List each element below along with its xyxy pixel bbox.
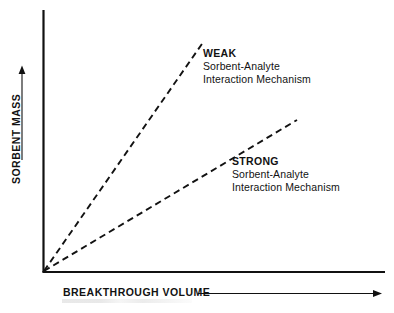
series-line-weak xyxy=(44,41,204,271)
cropped-caption-remnant xyxy=(62,299,192,303)
annotation-weak-line1: Sorbent-Analyte xyxy=(203,60,311,73)
annotation-weak-line2: Interaction Mechanism xyxy=(203,73,311,86)
arrow-right-icon xyxy=(198,290,382,297)
annotation-strong-line2: Interaction Mechanism xyxy=(232,181,340,194)
annotation-weak: WEAK Sorbent-Analyte Interaction Mechani… xyxy=(203,47,311,87)
annotation-strong-head: STRONG xyxy=(232,155,340,168)
annotation-weak-head: WEAK xyxy=(203,47,311,60)
chart-figure: WEAK Sorbent-Analyte Interaction Mechani… xyxy=(0,0,394,313)
x-axis-title: BREAKTHROUGH VOLUME xyxy=(63,286,210,298)
annotation-strong: STRONG Sorbent-Analyte Interaction Mecha… xyxy=(232,155,340,195)
annotation-strong-line1: Sorbent-Analyte xyxy=(232,168,340,181)
y-axis-title: SORBENT MASS xyxy=(10,64,22,184)
series-line-strong xyxy=(44,120,297,271)
